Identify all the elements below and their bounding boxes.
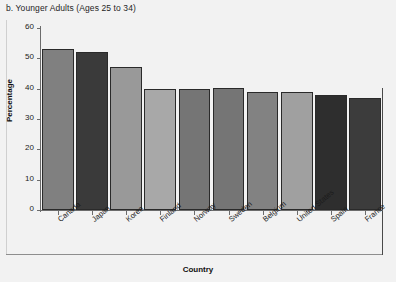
y-tick-label: 50 bbox=[25, 52, 34, 61]
bar-france bbox=[349, 98, 381, 210]
y-axis-label: Percentage bbox=[5, 79, 14, 122]
bar-finland bbox=[144, 89, 176, 210]
x-axis-tick-labels: CanadaJapanKoreaFinlandNorwaySwedenBelgi… bbox=[41, 211, 382, 257]
plot-right-border bbox=[382, 88, 383, 255]
bar-united-states bbox=[281, 92, 313, 210]
bar-japan bbox=[76, 52, 108, 210]
y-tick-label: 30 bbox=[25, 113, 34, 122]
x-axis-label: Country bbox=[0, 265, 396, 274]
y-tick-label: 10 bbox=[25, 174, 34, 183]
y-tick-label: 20 bbox=[25, 143, 34, 152]
bar-korea bbox=[110, 67, 142, 210]
figure-left-border bbox=[6, 20, 7, 255]
bar-norway bbox=[179, 89, 211, 210]
bar-canada bbox=[42, 49, 74, 210]
chart-figure: b. Younger Adults (Ages 25 to 34) 605040… bbox=[0, 0, 396, 282]
bar-sweden bbox=[213, 88, 245, 210]
y-tick-label: 0 bbox=[30, 204, 34, 213]
bar-series bbox=[41, 28, 382, 210]
bar-belgium bbox=[247, 92, 279, 210]
chart-title: b. Younger Adults (Ages 25 to 34) bbox=[6, 3, 136, 13]
y-tick-label: 40 bbox=[25, 83, 34, 92]
y-tick-label: 60 bbox=[25, 22, 34, 31]
